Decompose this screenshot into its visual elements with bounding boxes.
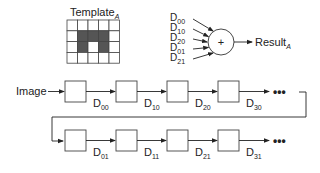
template-grid — [67, 20, 120, 63]
plus-operator: + — [218, 36, 224, 48]
template-cell — [99, 31, 110, 42]
svg-text:TemplateA: TemplateA — [70, 6, 120, 20]
template-title: TemplateA — [70, 6, 120, 20]
row1-continuation: ••• — [273, 85, 286, 99]
delay-output-label: D21 — [195, 146, 211, 160]
template-cell — [99, 42, 110, 53]
summation-node: + — [208, 29, 234, 55]
summation-input-arrow — [193, 19, 213, 31]
image-input-label: Image — [16, 85, 47, 97]
template-cell — [109, 42, 120, 53]
delay-output-label: D00 — [93, 97, 109, 111]
template-cell — [78, 42, 89, 53]
template-cell — [78, 20, 89, 31]
template-cell — [109, 52, 120, 63]
delay-output-label: D30 — [246, 97, 262, 111]
template-cell — [88, 42, 99, 53]
template-cell — [88, 20, 99, 31]
template-cell — [78, 31, 89, 42]
delay-output-label: D11 — [144, 146, 159, 160]
delay-box — [167, 81, 188, 102]
delay-box — [167, 130, 188, 151]
summation-input-arrow — [193, 48, 208, 50]
row2-continuation: ••• — [273, 134, 286, 148]
summation-input-arrow — [193, 39, 207, 42]
summation-input-arrow — [193, 29, 208, 37]
delay-box — [218, 81, 239, 102]
delay-box — [65, 81, 86, 102]
summation-inputs: D00D10D20D01D21 — [170, 12, 213, 65]
summation-input-arrow — [193, 53, 213, 59]
template-cell — [78, 52, 89, 63]
template-cell — [67, 31, 78, 42]
pipeline: D00D10D20D30•••D01D11D21D31••• — [48, 81, 286, 160]
template-cell — [99, 20, 110, 31]
delay-box — [218, 130, 239, 151]
delay-box — [65, 130, 86, 151]
template-cell — [88, 52, 99, 63]
template-cell — [67, 42, 78, 53]
delay-output-label: D31 — [246, 146, 262, 160]
template-cell — [88, 31, 99, 42]
delay-box — [116, 81, 137, 102]
template-cell — [67, 52, 78, 63]
template-cell — [109, 20, 120, 31]
delay-box — [116, 130, 137, 151]
delay-output-label: D10 — [144, 97, 160, 111]
template-cell — [109, 31, 120, 42]
result-label: ResultA — [255, 36, 291, 50]
delay-output-label: D20 — [195, 97, 211, 111]
template-cell — [67, 20, 78, 31]
template-cell — [99, 52, 110, 63]
delay-output-label: D01 — [93, 146, 109, 160]
diagram-canvas: TemplateA D00D10D20D01D21 + ResultA Imag… — [0, 0, 320, 173]
